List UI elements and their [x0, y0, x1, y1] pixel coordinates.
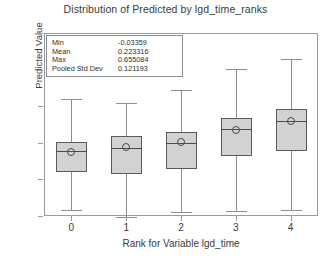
whisker-cap-upper: [61, 99, 82, 100]
y-tick-mark: [38, 33, 43, 34]
whisker-cap-lower: [61, 210, 82, 211]
y-tick-mark: [38, 106, 43, 107]
whisker-cap-lower: [171, 212, 192, 213]
x-tick-label: 1: [114, 222, 138, 233]
y-tick-mark: [38, 179, 43, 180]
whisker-cap-upper: [226, 69, 247, 70]
box-iqr-rect[interactable]: [56, 142, 87, 172]
x-axis-title: Rank for Variable lgd_time: [44, 238, 318, 249]
x-tick-mark: [181, 216, 182, 221]
y-tick-mark: [38, 143, 43, 144]
mean-marker: [177, 138, 185, 146]
y-axis-title: Predicted Value: [33, 0, 44, 116]
x-tick-mark: [291, 216, 292, 221]
x-tick-label: 4: [279, 222, 303, 233]
box-iqr-rect[interactable]: [221, 118, 252, 156]
x-tick-mark: [71, 216, 72, 221]
statistics-box: Min-0.03359Mean0.223316Max0.655084Pooled…: [46, 35, 183, 77]
y-tick-mark: [38, 216, 43, 217]
whisker-cap-upper: [171, 90, 192, 91]
statistic-value: 0.121193: [118, 65, 176, 74]
whisker-cap-lower: [226, 211, 247, 212]
whisker-cap-lower: [281, 210, 302, 211]
boxplot-chart: Distribution of Predicted by lgd_time_ra…: [0, 0, 331, 264]
y-tick-mark: [38, 70, 43, 71]
chart-title: Distribution of Predicted by lgd_time_ra…: [0, 3, 331, 15]
mean-marker: [232, 126, 240, 134]
mean-marker: [287, 117, 295, 125]
statistic-label: Pooled Std Dev: [52, 65, 118, 74]
x-tick-mark: [236, 216, 237, 221]
box-iqr-rect[interactable]: [276, 109, 307, 151]
box-iqr-rect[interactable]: [111, 136, 142, 174]
x-tick-label: 0: [59, 222, 83, 233]
statistic-row: Pooled Std Dev0.121193: [52, 65, 176, 74]
whisker-cap-lower: [116, 217, 137, 218]
x-tick-label: 2: [169, 222, 193, 233]
whisker-cap-upper: [281, 59, 302, 60]
x-tick-label: 3: [224, 222, 248, 233]
statistic-row: Mean0.223316: [52, 48, 176, 57]
statistic-row: Min-0.03359: [52, 39, 176, 48]
whisker-cap-upper: [116, 103, 137, 104]
